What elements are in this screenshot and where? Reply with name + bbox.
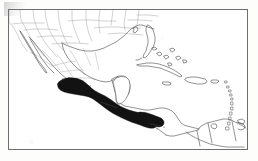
distribution-map-figure [0,0,258,161]
map-canvas [0,0,258,161]
